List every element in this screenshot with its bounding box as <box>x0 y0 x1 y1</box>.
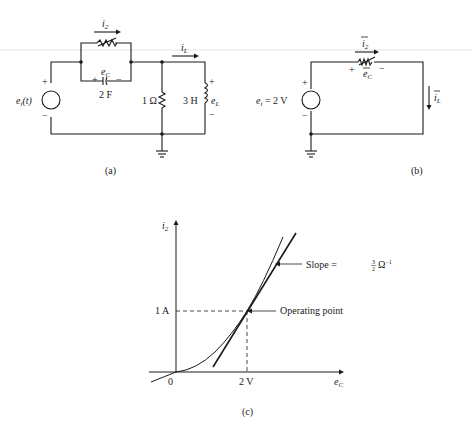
slope-den: 2 <box>372 266 375 272</box>
label-ec-minus-a: − <box>116 74 122 85</box>
tangent-line <box>213 233 296 367</box>
nonlinear-slash-b <box>359 57 375 65</box>
label-ec-plus-a: + <box>92 74 98 85</box>
label-source-a: ei(t) <box>16 95 33 108</box>
label-iL-a: iL <box>181 42 188 55</box>
label-i2-a: i2 <box>102 18 109 31</box>
label-eL: eL <box>211 95 219 108</box>
inductor-symbol <box>205 83 208 103</box>
caption-a: (a) <box>105 165 116 177</box>
origin-label: 0 <box>168 376 173 387</box>
y-axis-label: i2 <box>162 220 169 233</box>
voltage-source-symbol <box>42 91 60 109</box>
label-eL-plus: + <box>209 76 215 87</box>
label-source-minus-b: − <box>302 110 308 121</box>
label-source-minus-a: − <box>42 110 48 121</box>
graph-c <box>149 224 341 382</box>
label-eL-minus: − <box>209 109 215 120</box>
operating-point-label: Operating point <box>280 305 343 316</box>
arrows-c <box>174 220 345 375</box>
slope-label: Slope = <box>306 259 337 270</box>
slope-unit: Ω−1 <box>378 259 392 270</box>
y-axis-arrow-icon <box>174 220 179 225</box>
slope-num: 3 <box>372 259 375 265</box>
figure-canvas: i2 iL + eC − 2 F 1 Ω 3 H + eL − + ei(t) … <box>0 0 472 433</box>
voltage-source-symbol-b <box>302 91 320 109</box>
label-source-b: ei = 2 V <box>256 95 288 108</box>
resistor-1ohm-symbol <box>159 92 165 108</box>
label-capacitor-value: 2 F <box>99 89 113 100</box>
label-iL-b: iL <box>434 92 441 105</box>
caption-b: (b) <box>411 165 423 177</box>
label-ec-b: eC <box>363 68 372 81</box>
caption-c: (c) <box>242 406 253 418</box>
label-ec-a: eC <box>101 66 110 79</box>
arrow-head-icon <box>194 54 199 59</box>
label-source-plus-a: + <box>42 76 48 87</box>
x-tick-label: 2 V <box>239 376 254 387</box>
label-ec-plus-b: + <box>349 64 355 75</box>
arrow-head-icon <box>116 30 121 35</box>
label-inductor-value: 3 H <box>183 95 198 106</box>
x-axis-arrow-icon <box>339 370 344 375</box>
label-resistor-value: 1 Ω <box>142 95 157 106</box>
x-axis-label: eC <box>334 376 343 389</box>
label-source-plus-b: + <box>302 77 308 88</box>
label-i2-b: i2 <box>362 38 369 51</box>
y-tick-label: 1 A <box>155 305 170 316</box>
arrow-head-icon <box>427 105 432 110</box>
label-ec-minus-b: − <box>379 63 385 74</box>
